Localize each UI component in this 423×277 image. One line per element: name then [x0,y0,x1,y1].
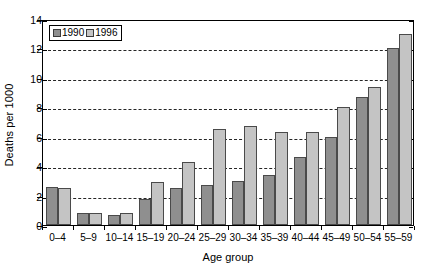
legend-entry-1990: 1990 [53,27,84,38]
bar-1990-0-4 [46,187,58,225]
bar-1990-50-54 [356,97,368,225]
x-tick-mark-5 [197,226,198,230]
bar-1996-10-14 [120,213,132,225]
x-tick-mark-6 [228,226,229,230]
bar-1990-25-29 [201,185,213,225]
bar-1990-15-19 [139,199,151,225]
x-tick-mark-7 [259,226,260,230]
bar-1996-0-4 [58,188,70,225]
bar-group [232,21,256,225]
legend-label-1996: 1996 [95,27,117,38]
x-tick-label-15-19: 15–19 [137,232,165,243]
bar-group [46,21,70,225]
x-tick-label-35-39: 35–39 [261,232,289,243]
bar-group [201,21,225,225]
bar-1996-15-19 [151,182,163,225]
bar-chart-figure: Deaths per 1000 02468101214 1990 1996 Ag… [0,0,423,277]
bar-group [139,21,163,225]
bar-1990-30-34 [232,181,244,225]
bar-1996-55-59 [399,34,411,225]
x-tick-mark-2 [104,226,105,230]
bar-group [356,21,380,225]
legend-entry-1996: 1996 [86,27,117,38]
plot-inner [43,21,413,225]
bar-group [387,21,411,225]
y-axis-ticks: 02468101214 [0,20,42,226]
legend-swatch-1990-icon [53,29,61,37]
x-tick-mark-12 [414,226,415,230]
x-tick-mark-9 [321,226,322,230]
x-tick-label-50-54: 50–54 [354,232,382,243]
bar-1996-30-34 [244,126,256,225]
bar-1996-25-29 [213,129,225,225]
x-tick-mark-10 [352,226,353,230]
legend-swatch-1996-icon [86,29,94,37]
bar-1996-35-39 [275,132,287,225]
bar-1990-10-14 [108,215,120,225]
x-axis-ticks [42,226,414,231]
legend-label-1990: 1990 [62,27,84,38]
x-axis-title: Age group [42,251,414,263]
chart-legend: 1990 1996 [49,25,122,41]
x-tick-label-20-24: 20–24 [168,232,196,243]
bar-group [108,21,132,225]
bar-1996-5-9 [89,213,101,225]
bar-1996-40-44 [306,132,318,225]
x-tick-label-5-9: 5–9 [80,232,97,243]
x-tick-mark-4 [166,226,167,230]
bar-1990-35-39 [263,175,275,225]
x-tick-label-40-44: 40–44 [292,232,320,243]
bar-1990-55-59 [387,48,399,225]
plot-area [42,20,414,226]
bar-1990-45-49 [325,137,337,225]
x-tick-mark-0 [42,226,43,230]
bar-1996-20-24 [182,162,194,225]
bar-group [325,21,349,225]
bar-1996-45-49 [337,107,349,225]
x-tick-label-25-29: 25–29 [199,232,227,243]
bar-group [294,21,318,225]
x-tick-label-0-4: 0–4 [49,232,66,243]
bar-group [170,21,194,225]
bar-group [263,21,287,225]
x-tick-mark-11 [383,226,384,230]
x-tick-mark-8 [290,226,291,230]
x-tick-label-10-14: 10–14 [106,232,134,243]
bar-1996-50-54 [368,87,380,225]
bar-1990-40-44 [294,157,306,225]
x-tick-label-55-59: 55–59 [385,232,413,243]
x-tick-mark-3 [135,226,136,230]
x-tick-label-30-34: 30–34 [230,232,258,243]
x-tick-mark-1 [73,226,74,230]
bar-1990-5-9 [77,213,89,225]
bar-1990-20-24 [170,188,182,225]
x-tick-label-45-49: 45–49 [323,232,351,243]
bar-group [77,21,101,225]
